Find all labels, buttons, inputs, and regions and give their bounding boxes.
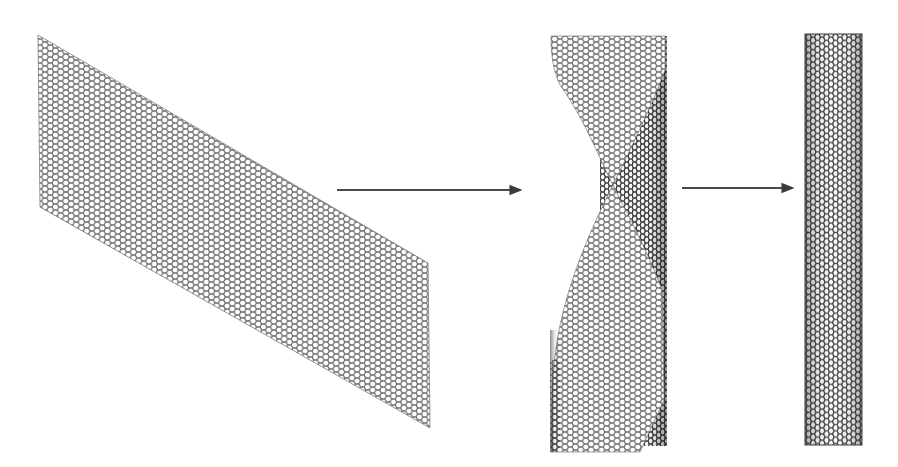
rolling-intermediate: [550, 36, 667, 452]
carbon-nanotube: [805, 34, 862, 445]
graphene-sheet: [38, 35, 430, 428]
diagram-canvas: [0, 0, 898, 467]
figure-stage: Graphene sheet Rolling intermediate Carb…: [0, 0, 898, 467]
